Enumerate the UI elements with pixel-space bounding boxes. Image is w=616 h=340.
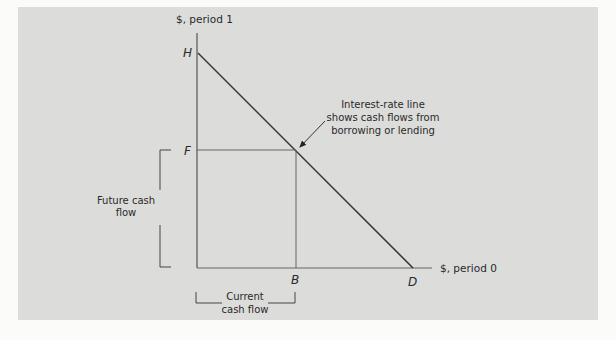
y-axis-label: $, period 1 — [176, 13, 233, 25]
current-cash-flow-bracket-left — [196, 292, 222, 303]
annotation-line-3: borrowing or lending — [331, 125, 435, 136]
point-d-label: D — [408, 275, 417, 289]
interest-rate-line — [198, 53, 413, 268]
current-cash-flow-bracket-right — [268, 292, 295, 303]
annotation-line-1: Interest-rate line — [341, 99, 425, 110]
point-b-label: B — [291, 273, 299, 287]
x-axis-label: $, period 0 — [440, 262, 497, 274]
point-h-label: H — [183, 46, 192, 60]
annotation-arrow — [300, 121, 325, 147]
annotation-line-2: shows cash flows from — [327, 112, 440, 123]
future-cash-flow-bracket-bottom — [160, 225, 171, 267]
future-cash-flow-label-2: flow — [116, 207, 137, 218]
current-cash-flow-label-2: cash flow — [222, 304, 269, 315]
future-cash-flow-label-1: Future cash — [97, 195, 155, 206]
point-f-label: F — [184, 144, 192, 158]
interest-rate-diagram: $, period 1 $, period 0 H F B D Interest… — [0, 0, 616, 340]
future-cash-flow-bracket-top — [160, 150, 171, 190]
current-cash-flow-label-1: Current — [226, 291, 264, 302]
